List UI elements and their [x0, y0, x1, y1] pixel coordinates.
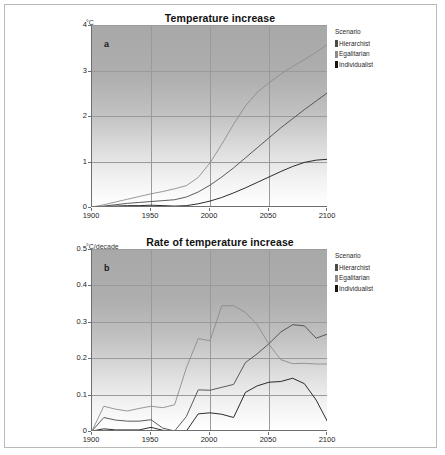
x-axis-tick-label: 1950 [135, 435, 165, 444]
legend-swatch-egalitarian [335, 275, 338, 282]
x-axis-tick-mark [326, 432, 327, 435]
x-axis-tick-mark [150, 208, 151, 211]
legend-a: Scenario Hierarchist Egalitarian Individ… [335, 27, 373, 70]
y-axis-tick-label: 0.4 [61, 280, 87, 289]
panel-rate-of-temperature-increase: Rate of temperature increase °C/decade b… [5, 233, 436, 449]
y-axis-tick-label: 0 [61, 426, 87, 435]
series-line-individualist [92, 159, 327, 207]
y-axis-tick-label: 0.3 [61, 317, 87, 326]
x-axis-tick-label: 1900 [76, 435, 106, 444]
x-axis-tick-mark [91, 208, 92, 211]
panel-letter-a: a [104, 39, 109, 49]
legend-label-individualist: Individualist [339, 60, 373, 71]
legend-swatch-individualist [335, 285, 338, 292]
y-axis-tick-mark [88, 25, 91, 26]
x-axis-tick-label: 2050 [253, 211, 283, 220]
legend-swatch-hierarchist [335, 40, 338, 47]
legend-item-egalitarian: Egalitarian [335, 273, 373, 284]
x-axis-tick-label: 2100 [312, 435, 342, 444]
series-layer [92, 25, 327, 207]
x-axis-tick-label: 2000 [194, 435, 224, 444]
y-axis-tick-mark [88, 116, 91, 117]
series-line-hierarchist [92, 92, 327, 207]
legend-item-hierarchist: Hierarchist [335, 39, 373, 50]
y-axis-tick-label: 0.5 [61, 244, 87, 253]
y-axis-tick-mark [88, 358, 91, 359]
y-axis-tick-mark [88, 285, 91, 286]
panel-letter-b: b [104, 263, 110, 273]
x-axis-tick-mark [91, 432, 92, 435]
legend-b: Scenario Hierarchist Egalitarian Individ… [335, 251, 373, 294]
x-axis-tick-mark [268, 432, 269, 435]
legend-label-egalitarian: Egalitarian [339, 49, 370, 60]
y-axis-tick-mark [88, 71, 91, 72]
plot-area-b [91, 249, 327, 431]
legend-label-individualist: Individualist [339, 284, 373, 295]
x-axis-tick-label: 2100 [312, 211, 342, 220]
series-line-egalitarian [92, 306, 327, 431]
legend-item-individualist: Individualist [335, 284, 373, 295]
chart-title-b: Rate of temperature increase [105, 236, 335, 248]
panel-temperature-increase: Temperature increase °C a Scenario Hiera… [5, 7, 436, 229]
legend-swatch-individualist [335, 61, 338, 68]
x-axis-tick-mark [268, 208, 269, 211]
y-axis-tick-label: 1 [61, 157, 87, 166]
legend-label-hierarchist: Hierarchist [339, 39, 370, 50]
x-axis-tick-mark [150, 432, 151, 435]
x-axis-tick-label: 1900 [76, 211, 106, 220]
figure-frame: Temperature increase °C a Scenario Hiera… [4, 4, 437, 448]
x-axis-tick-mark [209, 432, 210, 435]
legend-label-hierarchist: Hierarchist [339, 263, 370, 274]
legend-swatch-hierarchist [335, 264, 338, 271]
legend-item-individualist: Individualist [335, 60, 373, 71]
legend-item-hierarchist: Hierarchist [335, 263, 373, 274]
x-axis-tick-label: 2050 [253, 435, 283, 444]
y-axis-tick-label: 2 [61, 111, 87, 120]
x-axis-tick-mark [209, 208, 210, 211]
x-axis-tick-label: 1950 [135, 211, 165, 220]
y-axis-tick-label: 0.1 [61, 390, 87, 399]
legend-swatch-egalitarian [335, 51, 338, 58]
y-axis-tick-mark [88, 249, 91, 250]
plot-area-a [91, 25, 327, 207]
legend-label-egalitarian: Egalitarian [339, 273, 370, 284]
y-axis-tick-label: 0 [61, 202, 87, 211]
series-line-individualist [92, 378, 327, 431]
series-layer [92, 249, 327, 431]
y-axis-tick-mark [88, 322, 91, 323]
x-axis-tick-label: 2000 [194, 211, 224, 220]
series-line-egalitarian [92, 44, 327, 207]
y-axis-tick-label: 4 [61, 20, 87, 29]
legend-item-egalitarian: Egalitarian [335, 49, 373, 60]
legend-title: Scenario [335, 27, 373, 38]
y-axis-tick-mark [88, 395, 91, 396]
y-axis-tick-label: 3 [61, 66, 87, 75]
legend-title: Scenario [335, 251, 373, 262]
y-axis-tick-mark [88, 162, 91, 163]
y-axis-tick-label: 0.2 [61, 353, 87, 362]
chart-title-a: Temperature increase [105, 12, 335, 24]
x-axis-tick-mark [326, 208, 327, 211]
